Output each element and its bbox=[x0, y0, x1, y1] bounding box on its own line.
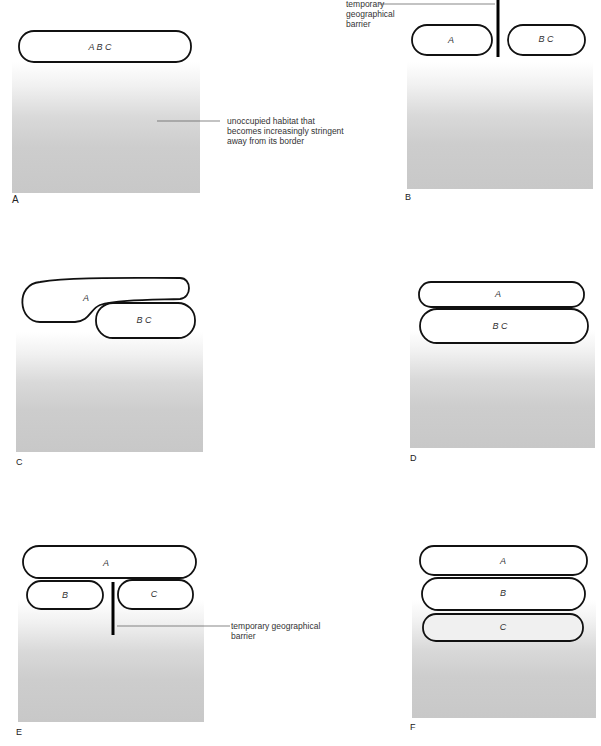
annotation-line: barrier bbox=[231, 631, 320, 641]
species-label: B bbox=[62, 590, 68, 600]
species-label: A bbox=[82, 293, 89, 303]
panel-label-a: A bbox=[12, 194, 19, 205]
species-label: C bbox=[500, 622, 507, 632]
species-label: A bbox=[447, 35, 454, 45]
annotation-line: becomes increasingly stringent bbox=[227, 126, 344, 136]
species-label: A bbox=[499, 556, 506, 566]
panel-label-d: D bbox=[410, 453, 417, 463]
species-label: A bbox=[102, 558, 109, 568]
panel-label-b: B bbox=[405, 192, 411, 202]
species-label: B C bbox=[136, 315, 152, 325]
annotation-line: unoccupied habitat that bbox=[227, 116, 344, 126]
species-label: C bbox=[151, 589, 158, 599]
species-label: B C bbox=[538, 34, 554, 44]
species-label: B C bbox=[492, 321, 508, 331]
annotation-line: barrier bbox=[346, 19, 395, 29]
panel-label-e: E bbox=[16, 727, 22, 737]
annotation-line: temporary geographical bbox=[231, 621, 320, 631]
population-a-d bbox=[419, 282, 584, 307]
annotation-barrier-e: temporary geographical barrier bbox=[231, 621, 320, 641]
annotation-line: away from its border bbox=[227, 136, 344, 146]
annotation-line: geographical bbox=[346, 9, 395, 19]
panel-label-c: C bbox=[16, 457, 23, 467]
species-label: A bbox=[494, 289, 501, 299]
species-label: B bbox=[500, 588, 506, 598]
species-label: A B C bbox=[87, 42, 112, 52]
panel-label-f: F bbox=[410, 722, 416, 732]
population-a-e bbox=[23, 546, 196, 578]
annotation-barrier-b: temporary geographical barrier bbox=[346, 0, 395, 29]
annotation-line: temporary bbox=[346, 0, 395, 9]
annotation-unoccupied-habitat: unoccupied habitat that becomes increasi… bbox=[227, 116, 344, 146]
